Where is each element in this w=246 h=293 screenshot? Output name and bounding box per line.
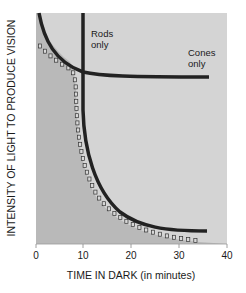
x-axis-ticks xyxy=(36,244,227,248)
x-tick-20: 20 xyxy=(125,250,136,261)
y-axis-label: INTENSITY OF LIGHT TO PRODUCE VISION xyxy=(5,20,17,237)
cones-label-line2: only xyxy=(188,58,215,69)
x-axis-label: TIME IN DARK (in minutes) xyxy=(0,269,246,281)
x-tick-40: 40 xyxy=(221,250,232,261)
x-tick-30: 30 xyxy=(173,250,184,261)
rods-only-annotation: Rods only xyxy=(91,28,113,50)
x-tick-10: 10 xyxy=(77,250,88,261)
x-tick-0: 0 xyxy=(33,250,39,261)
rods-label-line1: Rods xyxy=(91,28,113,39)
cones-label-line1: Cones xyxy=(188,47,215,58)
rods-label-line2: only xyxy=(91,39,113,50)
cones-only-annotation: Cones only xyxy=(188,47,215,69)
